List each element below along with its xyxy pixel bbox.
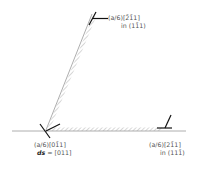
bottom-right-partial-burgers: (a/6)[21̄1] (149, 141, 185, 149)
horizontal-stacking-fault (50, 128, 162, 132)
stair-rod-label: (a/6)[01̄1] ds = [011] (34, 141, 72, 157)
stair-rod-burgers: (a/6)[01̄1] (34, 141, 72, 149)
top-partial-label: (a/6)[2̄1̄1] in (11̄1) (108, 14, 146, 30)
top-partial-burgers: (a/6)[2̄1̄1] (108, 14, 146, 22)
ds-value: = [011] (47, 149, 71, 156)
stair-rod-ds: ds = [011] (34, 149, 72, 157)
bottom-right-partial-dislocation-symbol (157, 115, 172, 128)
top-partial-plane: in (11̄1) (108, 22, 146, 30)
bottom-right-partial-plane: in (111̄) (149, 149, 185, 157)
inclined-slip-plane (46, 14, 92, 130)
bottom-right-partial-label: (a/6)[21̄1] in (111̄) (149, 141, 185, 157)
inclined-stacking-fault (47, 16, 96, 129)
ds-symbol: ds (37, 149, 45, 156)
